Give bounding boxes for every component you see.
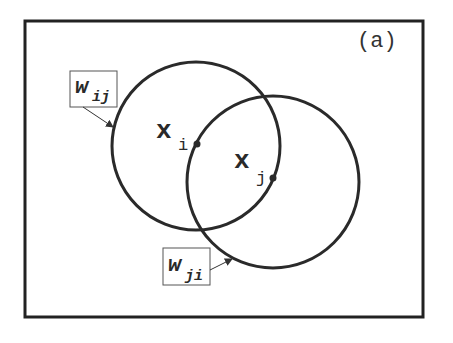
point-x-i-dot [194,141,201,148]
weight-w-ji-label: w [168,253,183,278]
point-x-j-label: x [234,146,250,176]
point-x-j: x j [234,146,277,188]
point-x-j-subscript: j [256,169,266,188]
weight-w-ij-subscript: ij [92,89,110,106]
figure-diagram: (a) x i x j w ij w ji [0,0,453,343]
point-x-i-subscript: i [178,136,188,155]
point-x-j-dot [270,175,277,182]
weight-w-ji-subscript: ji [184,268,203,285]
weight-w-ij-label: w [75,75,90,100]
weight-w-ij-arrow [83,107,113,127]
panel-label: (a) [357,29,397,54]
weight-w-ji-callout: w ji [163,248,232,285]
point-x-i-label: x [156,116,172,146]
weight-w-ji-arrow [210,259,232,270]
weight-w-ij-callout: w ij [70,71,117,127]
